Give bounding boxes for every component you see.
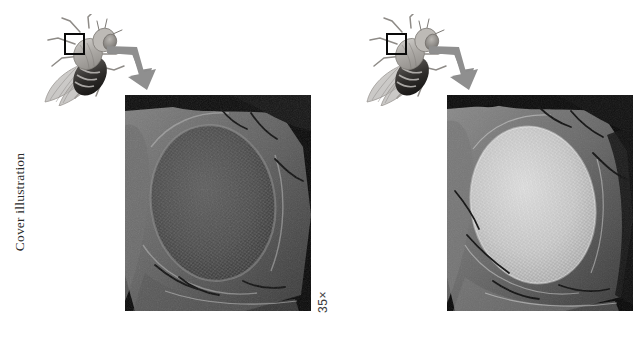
- cover-illustration-page: Cover illustration: [0, 0, 644, 344]
- magnification-arrow-right: [428, 44, 488, 92]
- figure-panel-right: 35×: [322, 0, 644, 344]
- sem-micrograph-left: [125, 95, 311, 311]
- sem-micrograph-right: [447, 95, 633, 311]
- figure-panel-left: 35×: [0, 0, 322, 344]
- eye-region-box-left: [64, 33, 85, 55]
- magnification-arrow-left: [106, 44, 166, 92]
- eye-region-box-right: [386, 33, 407, 55]
